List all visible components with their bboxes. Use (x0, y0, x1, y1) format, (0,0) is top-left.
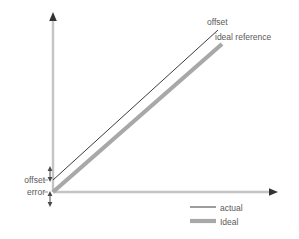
annotation-offset-left: offset (5, 175, 45, 185)
annotation-error-left: error (5, 187, 45, 197)
offset-error-diagram: offset ideal reference offset error actu… (0, 0, 299, 239)
offset-span-marker (48, 166, 53, 182)
annotation-offset-top: offset (207, 17, 228, 27)
x-axis-arrowhead-icon (269, 188, 278, 196)
error-span-marker (48, 191, 53, 207)
ideal-line (53, 44, 222, 192)
legend-label-ideal: Ideal (220, 217, 238, 227)
annotation-ideal-reference: ideal reference (215, 32, 271, 42)
y-axis-arrowhead-icon (49, 12, 57, 21)
actual-line (53, 30, 218, 180)
legend-label-actual: actual (220, 203, 243, 213)
